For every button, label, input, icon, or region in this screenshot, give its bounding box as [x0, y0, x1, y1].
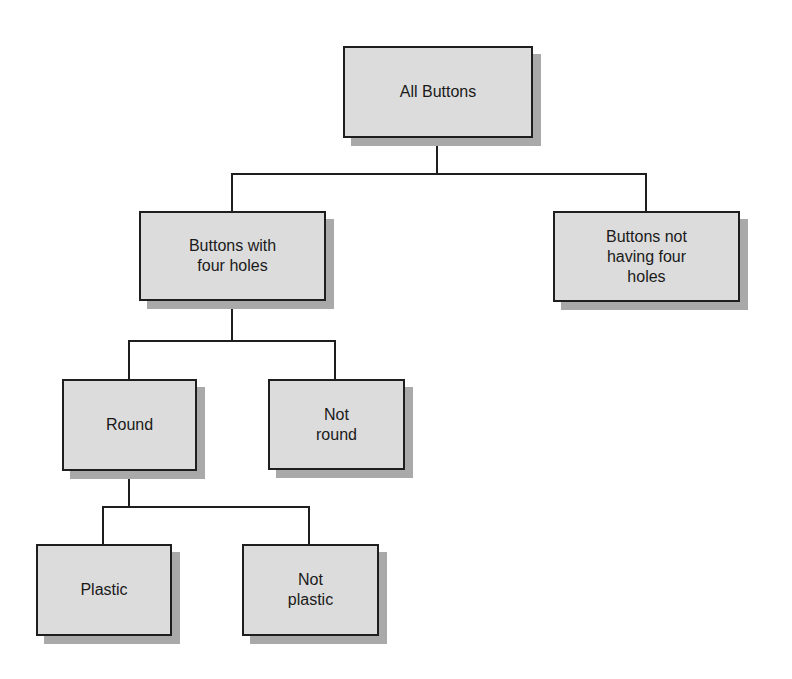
connector-root-down: [436, 137, 438, 175]
connector-level2-horizontal: [128, 340, 336, 342]
connector-to-plastic: [102, 506, 104, 545]
node-label: Round: [106, 415, 153, 435]
connector-level1-horizontal: [231, 173, 647, 175]
node-not-round: Not round: [268, 379, 405, 470]
node-label: Not plastic: [288, 570, 333, 610]
connector-to-not-round: [334, 340, 336, 380]
connector-round-down: [128, 470, 130, 508]
connector-level3-horizontal: [102, 506, 310, 508]
node-label: Plastic: [80, 580, 127, 600]
connector-four-holes-down: [231, 300, 233, 342]
connector-to-not-four-holes: [645, 173, 647, 212]
node-all-buttons: All Buttons: [343, 46, 533, 138]
node-round: Round: [62, 379, 197, 471]
connector-to-not-plastic: [308, 506, 310, 545]
node-not-plastic: Not plastic: [242, 544, 379, 636]
node-buttons-not-having-four-holes: Buttons not having four holes: [553, 211, 740, 302]
node-plastic: Plastic: [36, 544, 172, 636]
node-label: Buttons with four holes: [189, 236, 276, 276]
node-buttons-with-four-holes: Buttons with four holes: [139, 211, 326, 301]
connector-to-four-holes: [231, 173, 233, 212]
node-label: Not round: [316, 405, 357, 445]
node-label: Buttons not having four holes: [606, 227, 687, 287]
node-label: All Buttons: [400, 82, 476, 102]
tree-diagram: All Buttons Buttons with four holes Butt…: [0, 0, 792, 679]
connector-to-round: [128, 340, 130, 380]
